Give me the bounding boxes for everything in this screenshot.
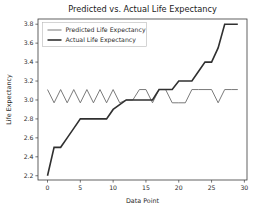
chart-legend: Predicted Life ExpectancyActual Life Exp… bbox=[43, 23, 147, 47]
line-chart: Predicted vs. Actual Life Expectancy Lif… bbox=[0, 0, 264, 213]
y-tick-label: 3.2 bbox=[24, 77, 34, 84]
y-tick-label: 3.4 bbox=[24, 58, 34, 65]
x-tick-label: 15 bbox=[142, 184, 150, 191]
chart-title: Predicted vs. Actual Life Expectancy bbox=[68, 4, 217, 14]
x-tick-label: 20 bbox=[175, 184, 183, 191]
y-tick-label: 2.4 bbox=[24, 153, 34, 160]
y-tick-label: 3.0 bbox=[24, 96, 34, 103]
x-tick-label: 10 bbox=[109, 184, 117, 191]
x-tick-label: 0 bbox=[46, 184, 50, 191]
y-tick-label: 3.6 bbox=[24, 39, 34, 46]
x-tick-label: 5 bbox=[78, 184, 82, 191]
x-axis-ticks: 051015202530 bbox=[46, 180, 249, 191]
y-tick-label: 3.8 bbox=[24, 20, 34, 27]
x-axis-title: Data Point bbox=[126, 197, 160, 205]
y-axis-title: Life Expectancy bbox=[5, 74, 13, 125]
legend-label: Actual Life Expectancy bbox=[66, 36, 137, 44]
y-axis-ticks: 2.22.42.62.83.03.23.43.63.8 bbox=[24, 20, 38, 179]
x-tick-label: 25 bbox=[208, 184, 216, 191]
y-tick-label: 2.2 bbox=[24, 172, 34, 179]
x-tick-label: 30 bbox=[240, 184, 248, 191]
legend-label: Predicted Life Expectancy bbox=[66, 26, 146, 34]
y-tick-label: 2.6 bbox=[24, 134, 34, 141]
chart-figure: Predicted vs. Actual Life Expectancy Lif… bbox=[0, 0, 264, 213]
y-tick-label: 2.8 bbox=[24, 115, 34, 122]
